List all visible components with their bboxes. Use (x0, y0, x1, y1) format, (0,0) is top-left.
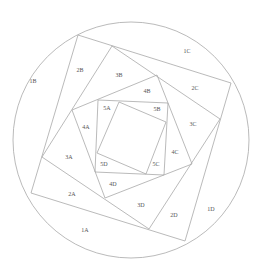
region-label-4c: 4C (171, 149, 178, 155)
region-label-1a: 1A (81, 227, 89, 233)
region-labels: 1A1B1C1D2A2B2C2D3A3B3C3D4A4B4C4D5A5B5C5D (29, 48, 215, 233)
region-label-2b: 2B (76, 67, 83, 73)
region-label-5b: 5B (153, 106, 160, 112)
region-label-3a: 3A (65, 154, 73, 160)
region-label-3d: 3D (137, 202, 145, 208)
outer-circle (13, 22, 249, 258)
region-label-3c: 3C (189, 121, 196, 127)
region-label-1d: 1D (207, 206, 215, 212)
region-label-2d: 2D (170, 212, 178, 218)
nested-squares (31, 35, 231, 241)
region-label-4d: 4D (109, 181, 117, 187)
region-label-1c: 1C (183, 48, 190, 54)
region-label-1b: 1B (29, 78, 36, 84)
region-label-5c: 5C (152, 161, 159, 167)
region-label-5d: 5D (100, 161, 108, 167)
square-3 (72, 75, 192, 198)
region-label-5a: 5A (103, 105, 111, 111)
square-2 (42, 46, 220, 229)
region-label-3b: 3B (115, 72, 122, 78)
region-label-4a: 4A (82, 124, 90, 130)
spiral-square-diagram: 1A1B1C1D2A2B2C2D3A3B3C3D4A4B4C4D5A5B5C5D (0, 0, 264, 277)
region-label-2c: 2C (191, 85, 198, 91)
region-label-4b: 4B (143, 88, 150, 94)
square-1 (31, 35, 231, 241)
region-label-2a: 2A (68, 191, 76, 197)
